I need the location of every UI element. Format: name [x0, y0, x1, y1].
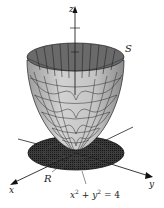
- paraboloid-surface: [27, 43, 124, 150]
- x-axis-label: x: [9, 186, 14, 195]
- boundary-leader-line: [82, 171, 86, 184]
- z-axis-label: z: [69, 5, 74, 14]
- eq-rhs: = 4: [101, 190, 120, 200]
- boundary-equation: x2 + y2 = 4: [70, 189, 120, 200]
- surface-label: S: [125, 44, 132, 54]
- diagram-canvas: [0, 0, 164, 208]
- y-axis-label: y: [149, 180, 154, 189]
- paraboloid-diagram: z S R x y x2 + y2 = 4: [0, 0, 164, 208]
- eq-plus: +: [79, 190, 92, 200]
- region-label: R: [44, 174, 52, 184]
